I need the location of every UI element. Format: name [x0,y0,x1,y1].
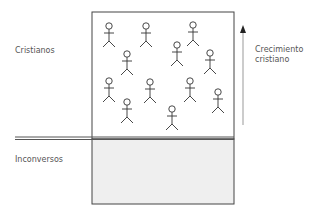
growth-label-line1: Crecimiento [255,45,303,55]
christians-label: Cristianos [15,46,55,56]
stick-figure-icon [103,23,115,47]
stick-figure-icon [121,99,133,123]
growth-label-line2: cristiano [255,55,303,65]
unbelievers-label: Inconversos [15,155,63,165]
unbelievers-region [92,139,234,204]
stick-figure-icon [166,106,178,130]
stick-figure-icon [140,23,152,47]
stick-figure-icon [204,50,216,74]
stick-figures [103,22,224,130]
growth-arrow-head [240,25,246,33]
christians-region [92,12,234,139]
stick-figure-icon [187,22,199,46]
stick-figure-icon [121,51,133,75]
stick-figure-icon [184,78,196,102]
growth-label: Crecimiento cristiano [255,45,303,65]
stick-figure-icon [212,89,224,113]
stick-figure-icon [171,42,183,66]
diagram-canvas [0,0,315,215]
stick-figure-icon [144,79,156,103]
stick-figure-icon [103,78,115,102]
